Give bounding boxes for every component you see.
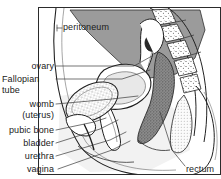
label-ovary: ovary <box>2 61 54 72</box>
label-pubic-bone: pubic bone <box>2 125 54 136</box>
figure-root: peritoneum ovary Fallopian tube womb (ut… <box>0 0 221 179</box>
label-womb-uterus: womb (uterus) <box>2 99 54 120</box>
label-peritoneum: peritoneum <box>63 22 109 33</box>
label-fallopian-tube: Fallopian tube <box>2 74 58 95</box>
label-vagina: vagina <box>2 164 54 175</box>
label-bladder: bladder <box>2 138 54 149</box>
label-rectum: rectum <box>186 164 214 175</box>
label-urethra: urethra <box>2 151 54 162</box>
